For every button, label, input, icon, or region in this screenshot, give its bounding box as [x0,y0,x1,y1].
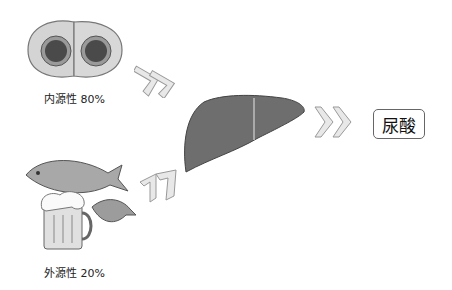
food-illustration [22,145,142,255]
double-chevron-icon [136,168,186,208]
endogenous-label: 内源性 80% [44,90,105,106]
cells-illustration [22,18,132,82]
uric-acid-box: 尿酸 [373,109,425,139]
exogenous-label: 外源性 20% [44,264,105,280]
double-chevron-icon [134,58,184,98]
liver-illustration [182,94,307,174]
double-chevron-icon [313,103,355,141]
